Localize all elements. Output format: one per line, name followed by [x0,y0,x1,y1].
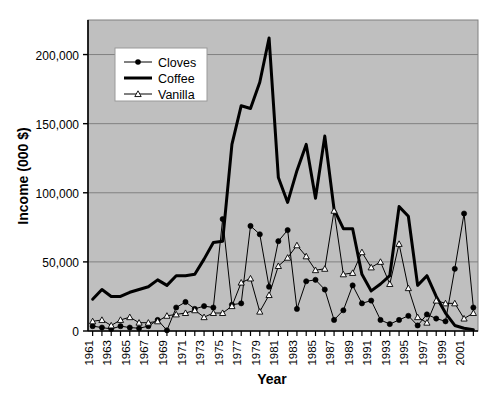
data-point-marker [443,319,448,324]
x-tick-label: 1999 [436,340,448,366]
data-point-marker [341,308,346,313]
y-axis-title: Income (000 $) [15,127,31,224]
data-point-marker [248,223,253,228]
x-tick-label: 2001 [454,340,466,366]
y-tick-label: 50,000 [42,256,79,270]
y-tick-label: 150,000 [36,118,80,132]
data-point-marker [285,227,290,232]
x-tick-label: 1965 [120,340,132,366]
data-point-marker [424,312,429,317]
x-tick-label: 1961 [83,340,95,366]
income-line-chart: 1961196319651967196919711973197519771979… [0,0,502,393]
data-point-marker [406,313,411,318]
x-tick-label: 1989 [343,340,355,366]
data-point-marker [313,277,318,282]
data-point-marker [434,316,439,321]
x-tick-label: 1985 [306,340,318,366]
y-axis-tick-labels: 050,000100,000150,000200,000 [36,49,80,339]
legend-label: Vanilla [158,88,195,102]
data-point-marker [378,317,383,322]
y-tick-label: 100,000 [36,187,80,201]
x-tick-label: 1991 [361,340,373,366]
legend-label: Cloves [158,56,196,70]
data-point-marker [452,266,457,271]
data-point-marker [369,298,374,303]
data-point-marker [304,279,309,284]
data-point-marker [415,323,420,328]
data-point-marker [396,317,401,322]
x-tick-label: 1963 [101,340,113,366]
x-tick-label: 1983 [287,340,299,366]
data-point-marker [276,239,281,244]
x-tick-label: 1979 [250,340,262,366]
x-axis-title: Year [257,371,287,387]
legend-marker-filled-diamond-icon [135,59,141,65]
x-tick-label: 1981 [268,340,280,366]
data-point-marker [183,299,188,304]
data-point-marker [257,232,262,237]
x-axis-tick-labels: 1961196319651967196919711973197519771979… [83,340,466,366]
y-tick-label: 0 [72,325,79,339]
chart-container: 1961196319651967196919711973197519771979… [0,0,502,393]
data-point-marker [99,325,104,330]
data-point-marker [350,283,355,288]
legend-label: Coffee [158,72,195,86]
data-point-marker [294,306,299,311]
x-tick-label: 1969 [157,340,169,366]
x-tick-label: 1967 [138,340,150,366]
x-tick-label: 1975 [213,340,225,366]
data-point-marker [90,324,95,329]
data-point-marker [201,304,206,309]
data-point-marker [118,324,123,329]
data-point-marker [136,326,141,331]
data-point-marker [322,287,327,292]
x-tick-label: 1971 [176,340,188,366]
x-tick-label: 1993 [380,340,392,366]
x-tick-label: 1995 [398,340,410,366]
data-point-marker [127,325,132,330]
x-tick-label: 1997 [417,340,429,366]
data-point-marker [461,211,466,216]
data-point-marker [174,305,179,310]
chart-legend: ClovesCoffeeVanilla [115,48,207,102]
x-tick-label: 1987 [324,340,336,366]
data-point-marker [359,301,364,306]
data-point-marker [331,317,336,322]
y-tick-label: 200,000 [36,49,80,63]
data-point-marker [239,301,244,306]
x-tick-label: 1977 [231,340,243,366]
data-point-marker [387,321,392,326]
x-tick-label: 1973 [194,340,206,366]
